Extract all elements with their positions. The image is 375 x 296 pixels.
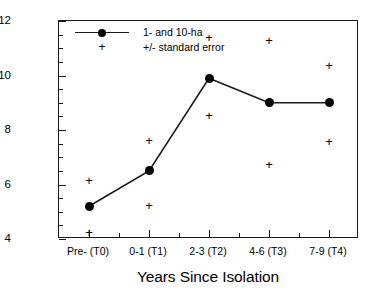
- standard-error-lower-marker: +: [145, 198, 153, 211]
- standard-error-lower-marker: +: [205, 109, 213, 122]
- figure-canvas: Captures/1000 Net-hours Years Since Isol…: [0, 0, 375, 296]
- plot-area: ++++++++++ 1- and 10-ha + +/- standard e…: [58, 20, 358, 238]
- y-tick-label: 8: [0, 123, 11, 135]
- y-tick-label: 6: [0, 178, 11, 190]
- legend-label-error: +/- standard error: [143, 41, 224, 53]
- legend-label-series: 1- and 10-ha: [143, 26, 203, 38]
- standard-error-upper-marker: +: [145, 133, 153, 146]
- y-tick-label: 10: [0, 69, 11, 81]
- y-tick-label: 12: [0, 14, 11, 26]
- y-tick-label: 4: [0, 232, 11, 244]
- y-tick-major: [59, 239, 66, 240]
- data-point-marker: [325, 98, 334, 107]
- data-point-marker: [85, 202, 94, 211]
- x-tick-label: 7-9 (T4): [283, 245, 373, 257]
- legend-circle-marker-icon: [98, 29, 106, 37]
- standard-error-upper-marker: +: [325, 58, 333, 71]
- legend-entry-series: 1- and 10-ha: [71, 25, 251, 40]
- x-axis-title: Years Since Isolation: [58, 268, 358, 286]
- legend-plus-marker-icon: +: [98, 41, 105, 53]
- data-point-marker: [145, 166, 154, 175]
- legend-entry-error: + +/- standard error: [71, 40, 251, 55]
- standard-error-upper-marker: +: [265, 34, 273, 47]
- standard-error-upper-marker: +: [85, 174, 93, 187]
- data-point-marker: [265, 98, 274, 107]
- standard-error-lower-marker: +: [85, 226, 93, 239]
- standard-error-lower-marker: +: [325, 134, 333, 147]
- legend: 1- and 10-ha + +/- standard error: [71, 25, 251, 55]
- standard-error-lower-marker: +: [265, 158, 273, 171]
- data-point-marker: [205, 74, 214, 83]
